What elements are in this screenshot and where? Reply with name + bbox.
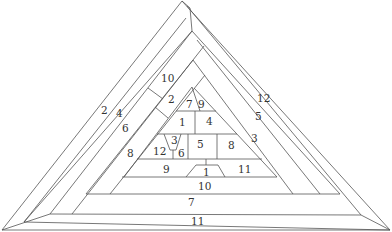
label-7-top: 7 [186,98,193,110]
label-1-trap: 1 [203,166,210,178]
label-6-left: 6 [122,122,129,134]
label-11-row: 11 [238,163,251,175]
label-5-right: 5 [255,110,262,122]
ring1-bl-diag [2,214,50,230]
ring1-right [187,6,361,215]
ring4-left [86,60,193,194]
label-6-small: 6 [178,147,185,159]
triangle-diagram: 2 4 6 8 10 2 7 9 1 4 3 12 6 5 8 3 5 12 9… [0,0,392,232]
label-12-right: 12 [257,92,270,104]
label-10-row: 10 [198,180,211,192]
label-9-row: 9 [163,163,170,175]
label-7-row: 7 [188,196,195,208]
ring1-apex [182,1,190,8]
label-8-left: 8 [127,147,134,159]
ring2-left-b [50,31,192,214]
label-4-mid: 4 [206,115,213,127]
diagram-canvas: 2 4 6 8 10 2 7 9 1 4 3 12 6 5 8 3 5 12 9… [0,0,392,232]
inner-left [124,87,192,177]
label-2-inner: 2 [168,93,175,105]
label-1-mid: 1 [179,116,186,128]
label-3-small: 3 [171,134,178,146]
label-11-bottom: 11 [191,215,204,227]
div-2-left [155,107,168,118]
label-8-mid: 8 [228,139,235,151]
ring1-br-diag [361,215,390,230]
label-4-left: 4 [116,107,123,119]
label-3-right: 3 [251,132,258,144]
label-12-inner: 12 [153,145,166,157]
label-10-upper: 10 [161,72,174,84]
div-10-left [148,88,163,99]
label-2-left: 2 [101,104,108,116]
ring1-bottom-inner [50,214,361,215]
ring2-left [24,18,186,222]
label-5-mid: 5 [197,138,204,150]
ring2-right [192,31,340,194]
ring1-bottom [24,222,390,230]
label-9-top: 9 [198,98,205,110]
